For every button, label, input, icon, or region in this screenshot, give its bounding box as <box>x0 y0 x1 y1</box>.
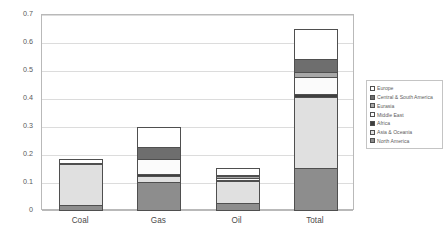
bar-segment <box>137 159 181 174</box>
legend-item[interactable]: Asia & Oceania <box>370 128 440 137</box>
bar-segment <box>59 159 103 163</box>
bar-segment <box>59 164 103 205</box>
legend-item-label: Middle East <box>377 112 404 118</box>
y-axis-tick-label: 0.1 <box>3 178 33 186</box>
legend-swatch-icon <box>370 103 375 108</box>
legend-item-label: Central & South America <box>377 94 433 100</box>
x-axis-tick-label: Coal <box>41 216 119 225</box>
bar-segment <box>137 182 181 211</box>
bar-segment <box>137 174 181 175</box>
bar-segment <box>294 168 338 211</box>
bar-segment <box>294 59 338 72</box>
bar-segment <box>294 97 338 169</box>
bar-segment <box>294 29 338 59</box>
legend-item[interactable]: North America <box>370 137 440 146</box>
stacked-bar-chart: GtCO2e 00.10.20.30.40.50.60.7 CoalGasOil… <box>0 0 446 243</box>
bar-segment <box>59 163 103 164</box>
bar-segment <box>216 181 260 203</box>
bar-segment <box>137 147 181 159</box>
y-axis-tick-label: 0.5 <box>3 66 33 74</box>
legend-item-label: North America <box>377 138 409 144</box>
legend-item-label: Africa <box>377 120 390 126</box>
y-axis-tick-label: 0.4 <box>3 94 33 102</box>
legend-item-label: Eurasia <box>377 103 394 109</box>
bar-segment <box>294 77 338 94</box>
legend-item[interactable]: Eurasia <box>370 102 440 111</box>
bar-segment <box>59 205 103 211</box>
bar-oil <box>216 15 260 211</box>
legend-swatch-icon <box>370 95 375 100</box>
legend-swatch-icon <box>370 121 375 126</box>
bar-segment <box>216 175 260 177</box>
legend-item[interactable]: Central & South America <box>370 93 440 102</box>
bar-gas <box>137 15 181 211</box>
legend-item[interactable]: Europe <box>370 84 440 93</box>
legend-item[interactable]: Africa <box>370 119 440 128</box>
x-axis-tick-label: Oil <box>198 216 276 225</box>
bar-coal <box>59 15 103 211</box>
y-axis-tick-label: 0.6 <box>3 38 33 46</box>
y-axis-tick-label: 0 <box>3 206 33 214</box>
y-axis-title: GtCO2e <box>0 54 1 84</box>
legend-item[interactable]: Middle East <box>370 110 440 119</box>
x-axis-tick-label: Gas <box>119 216 197 225</box>
legend-swatch-icon <box>370 86 375 91</box>
y-axis-tick-label: 0.7 <box>3 10 33 18</box>
x-axis-tick-label: Total <box>276 216 354 225</box>
y-axis-tick-label: 0.3 <box>3 122 33 130</box>
bar-segment <box>137 127 181 147</box>
legend-swatch-icon <box>370 130 375 135</box>
y-axis-tick-label: 0.2 <box>3 150 33 158</box>
bar-segment <box>294 72 338 77</box>
bar-segment <box>294 94 338 97</box>
bar-total <box>294 15 338 211</box>
bar-segment <box>216 203 260 211</box>
bar-segment <box>216 168 260 174</box>
legend-swatch-icon <box>370 138 375 143</box>
bar-segment <box>137 176 181 183</box>
legend-item-label: Europe <box>377 85 393 91</box>
bar-segment <box>216 180 260 181</box>
legend-swatch-icon <box>370 112 375 117</box>
bar-segment <box>216 176 260 178</box>
legend-item-label: Asia & Oceania <box>377 129 412 135</box>
plot-area <box>41 14 354 210</box>
bar-segment <box>216 178 260 180</box>
legend: EuropeCentral & South AmericaEurasiaMidd… <box>366 80 443 149</box>
